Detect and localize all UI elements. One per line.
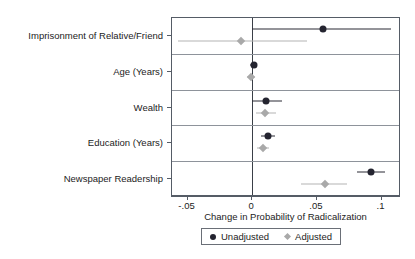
data-point-unadjusted[interactable] <box>263 97 270 104</box>
diamond-marker-icon <box>284 233 291 240</box>
chart-legend: Unadjusted Adjusted <box>201 228 341 245</box>
legend-item-adjusted[interactable]: Adjusted <box>285 231 332 242</box>
gridline <box>172 125 399 126</box>
y-axis-tick <box>167 35 171 36</box>
gridline <box>172 54 399 55</box>
data-point-adjusted[interactable] <box>247 72 255 80</box>
y-axis-label: Newspaper Readership <box>64 173 163 184</box>
data-point-adjusted[interactable] <box>320 180 328 188</box>
x-axis-tick-label: .1 <box>377 200 385 211</box>
y-axis-label: Age (Years) <box>113 65 163 76</box>
y-axis-tick <box>167 142 171 143</box>
data-point-adjusted[interactable] <box>261 108 269 116</box>
gridline <box>172 90 399 91</box>
y-axis-tick <box>167 107 171 108</box>
gridline <box>172 161 399 162</box>
x-axis-tick-label: .05 <box>309 200 322 211</box>
circle-marker-icon <box>210 234 216 240</box>
chart-figure: Imprisonment of Relative/FriendAge (Year… <box>0 0 415 259</box>
x-axis-title: Change in Probability of Radicalization <box>171 211 400 222</box>
y-axis-label: Imprisonment of Relative/Friend <box>28 29 163 40</box>
x-axis-line <box>171 196 400 197</box>
data-point-unadjusted[interactable] <box>250 61 257 68</box>
data-point-unadjusted[interactable] <box>368 169 375 176</box>
x-axis-tick-label: -.05 <box>178 200 194 211</box>
zero-reference-line <box>252 18 253 195</box>
legend-label-unadjusted: Unadjusted <box>221 231 269 242</box>
legend-item-unadjusted[interactable]: Unadjusted <box>210 231 269 242</box>
data-point-adjusted[interactable] <box>236 37 244 45</box>
y-axis-tick <box>167 178 171 179</box>
y-axis-tick <box>167 71 171 72</box>
y-axis-label: Education (Years) <box>88 137 163 148</box>
data-point-adjusted[interactable] <box>258 144 266 152</box>
y-axis-label: Wealth <box>134 101 163 112</box>
y-axis-category-labels: Imprisonment of Relative/FriendAge (Year… <box>0 17 167 196</box>
data-point-unadjusted[interactable] <box>320 25 327 32</box>
x-axis-tick-label: 0 <box>249 200 254 211</box>
legend-label-adjusted: Adjusted <box>295 231 332 242</box>
plot-area <box>171 17 400 196</box>
data-point-unadjusted[interactable] <box>264 133 271 140</box>
